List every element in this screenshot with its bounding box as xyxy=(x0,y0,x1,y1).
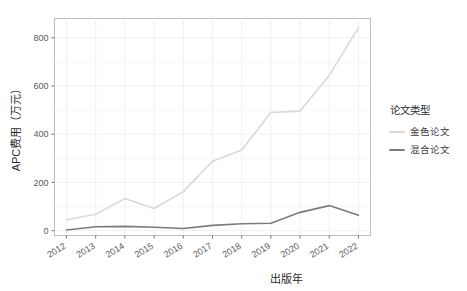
y-tick-label: 800 xyxy=(33,33,48,43)
y-tick-label: 400 xyxy=(33,129,48,139)
legend-label-混合论文[interactable]: 混合论文 xyxy=(410,144,450,155)
chart-container: 0200400600800 20122013201420152016201720… xyxy=(0,0,467,291)
apc-cost-line-chart: 0200400600800 20122013201420152016201720… xyxy=(0,0,467,291)
x-axis-title: 出版年 xyxy=(270,272,303,285)
legend-label-金色论文[interactable]: 金色论文 xyxy=(410,126,450,137)
y-tick-label: 0 xyxy=(43,226,48,236)
y-axis-title: APC费用（万元） xyxy=(10,83,22,172)
y-tick-label: 600 xyxy=(33,81,48,91)
legend-title: 论文类型 xyxy=(390,104,430,116)
y-tick-label: 200 xyxy=(33,178,48,188)
